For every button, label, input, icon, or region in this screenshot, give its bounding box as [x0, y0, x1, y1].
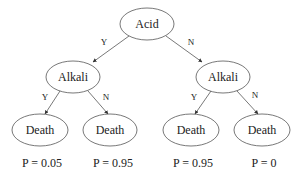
edge-alkali-left-to-death-1: Y: [42, 91, 60, 114]
edge-alkali-right-to-death-3: Y: [191, 91, 211, 114]
node-alkali-left: Alkali: [46, 61, 100, 93]
arrow-icon: [195, 91, 211, 114]
edge-acid-to-alkali-left: Y: [93, 36, 129, 62]
node-acid: Acid: [120, 8, 174, 40]
probability-label: P = 0: [252, 156, 277, 170]
node-label: Death: [177, 123, 206, 137]
edge-label: N: [103, 92, 110, 102]
edge-label: Y: [191, 92, 198, 102]
node-label: Death: [248, 123, 277, 137]
node-death-4: Death: [234, 114, 290, 146]
node-death-3: Death: [163, 114, 219, 146]
arrow-icon: [166, 36, 202, 62]
nodes-group: AcidAlkaliAlkaliDeathDeathDeathDeath: [12, 8, 290, 146]
node-label: Death: [26, 123, 55, 137]
edge-alkali-right-to-death-4: N: [237, 90, 259, 114]
edge-acid-to-alkali-right: N: [166, 36, 202, 62]
node-death-2: Death: [83, 114, 137, 146]
arrow-icon: [93, 36, 129, 62]
probability-label: P = 0.95: [173, 156, 213, 170]
edge-alkali-left-to-death-2: N: [88, 91, 110, 114]
edge-label: N: [252, 90, 259, 100]
probability-label: P = 0.95: [93, 156, 133, 170]
edge-label: N: [188, 37, 195, 47]
node-label: Alkali: [58, 70, 89, 84]
probability-label: P = 0.05: [22, 156, 62, 170]
node-label: Alkali: [208, 70, 239, 84]
edge-label: Y: [42, 92, 49, 102]
node-death-1: Death: [12, 114, 68, 146]
node-label: Death: [96, 123, 125, 137]
node-alkali-right: Alkali: [196, 61, 250, 93]
node-label: Acid: [135, 17, 158, 31]
decision-tree-diagram: YNYNYN AcidAlkaliAlkaliDeathDeathDeathDe…: [0, 0, 301, 179]
edge-label: Y: [101, 37, 108, 47]
probabilities-group: P = 0.05P = 0.95P = 0.95P = 0: [22, 156, 277, 170]
